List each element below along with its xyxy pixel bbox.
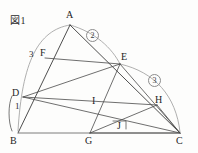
vertex-label-G: G bbox=[85, 136, 92, 146]
segment-A-B bbox=[18, 25, 70, 133]
geometry-canvas bbox=[0, 0, 198, 153]
segment-D-H bbox=[23, 97, 157, 105]
tick-mark-group bbox=[9, 96, 126, 131]
segment-F-E bbox=[45, 58, 120, 64]
vertex-label-D: D bbox=[12, 88, 19, 98]
circled-label-3: 3 bbox=[148, 74, 161, 87]
vertex-label-J: J bbox=[117, 121, 121, 131]
vertex-label-A: A bbox=[66, 10, 73, 20]
geometry-figure: 図1 A B C D E F G H I J bbox=[0, 0, 198, 153]
vertex-label-I: I bbox=[92, 96, 95, 106]
segment-D-E bbox=[23, 64, 120, 97]
length-label-3: 3 bbox=[29, 50, 34, 59]
vertex-label-B: B bbox=[10, 136, 17, 146]
vertex-label-C: C bbox=[176, 136, 183, 146]
vertex-label-F: F bbox=[40, 48, 46, 58]
circled-label-2: 2 bbox=[86, 29, 99, 42]
bracket-B-D bbox=[9, 96, 12, 131]
length-label-1: 1 bbox=[15, 102, 20, 111]
segment-A-C bbox=[70, 25, 180, 133]
vertex-label-H: H bbox=[155, 95, 162, 105]
vertex-label-E: E bbox=[121, 52, 127, 62]
